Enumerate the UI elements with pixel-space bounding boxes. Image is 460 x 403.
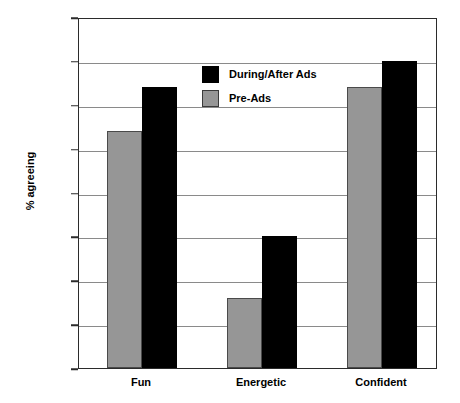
- y-tick-mark: [71, 281, 78, 283]
- y-tick-mark: [71, 368, 78, 370]
- bar-during-after-ads-fun: [142, 87, 177, 368]
- bar-during-after-ads-energetic: [262, 236, 297, 368]
- legend-item: During/After Ads: [202, 62, 317, 86]
- y-tick-mark: [71, 61, 78, 63]
- bar-pre-ads-energetic: [227, 298, 262, 368]
- y-tick-mark: [71, 105, 78, 107]
- y-tick-mark: [71, 149, 78, 151]
- black-swatch: [202, 66, 219, 83]
- y-tick-mark: [71, 237, 78, 239]
- y-tick-mark: [71, 324, 78, 326]
- legend-item: Pre-Ads: [202, 86, 317, 110]
- x-tick-label-energetic: Energetic: [191, 376, 331, 388]
- y-tick-mark: [71, 193, 78, 195]
- gray-swatch: [202, 90, 219, 107]
- x-tick-label-fun: Fun: [71, 376, 211, 388]
- bar-pre-ads-confident: [347, 87, 382, 368]
- bar-during-after-ads-confident: [382, 61, 417, 368]
- legend-label: During/After Ads: [229, 68, 317, 80]
- x-tick-label-confident: Confident: [311, 376, 451, 388]
- legend-label: Pre-Ads: [229, 92, 271, 104]
- y-tick-mark: [71, 17, 78, 19]
- y-axis-title: % agreeing: [24, 121, 36, 241]
- bar-chart: % agreeing 0510152025303540 FunEnergetic…: [0, 0, 460, 403]
- bar-pre-ads-fun: [107, 131, 142, 368]
- chart-legend: During/After AdsPre-Ads: [202, 62, 317, 110]
